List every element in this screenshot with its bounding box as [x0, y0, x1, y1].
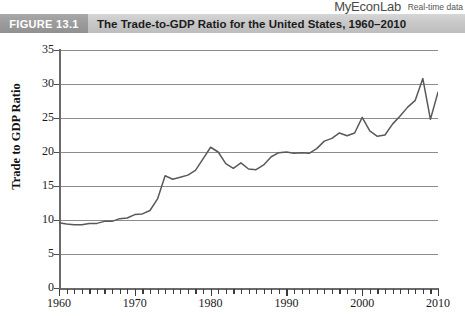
x-axis-minor-tick: [415, 289, 416, 294]
y-axis-tick-mark: [54, 50, 59, 51]
x-axis-minor-tick: [67, 289, 68, 294]
x-axis-minor-tick: [332, 289, 333, 294]
x-axis-minor-tick: [120, 289, 121, 294]
y-axis-tick-label: 35: [20, 42, 54, 57]
x-axis-minor-tick: [165, 289, 166, 294]
x-axis-minor-tick: [423, 289, 424, 294]
y-axis-tick-label: 25: [20, 110, 54, 125]
figure-caption-sliver: [0, 308, 465, 316]
x-axis-minor-tick: [104, 289, 105, 294]
x-axis-minor-tick: [89, 289, 90, 294]
y-axis-tick-label: 30: [20, 76, 54, 91]
y-axis-tick-mark: [54, 186, 59, 187]
x-axis-major-tick: [438, 289, 439, 296]
y-axis-tick-mark: [54, 118, 59, 119]
x-axis-minor-tick: [241, 289, 242, 294]
x-axis-minor-tick: [112, 289, 113, 294]
x-axis-minor-tick: [294, 289, 295, 294]
x-axis-minor-tick: [142, 289, 143, 294]
figure-number-badge: FIGURE 13.1: [0, 14, 88, 33]
x-axis-minor-tick: [173, 289, 174, 294]
x-axis-minor-tick: [279, 289, 280, 294]
x-axis-minor-tick: [158, 289, 159, 294]
x-axis-minor-tick: [430, 289, 431, 294]
x-axis-minor-tick: [370, 289, 371, 294]
x-axis-minor-tick: [302, 289, 303, 294]
x-axis-minor-tick: [226, 289, 227, 294]
x-axis-minor-tick: [317, 289, 318, 294]
y-axis-tick-labels: 05101520253035: [14, 33, 54, 316]
x-axis-minor-tick: [97, 289, 98, 294]
x-axis-minor-tick: [218, 289, 219, 294]
x-axis-minor-tick: [355, 289, 356, 294]
x-axis-minor-tick: [385, 289, 386, 294]
x-axis-major-tick: [362, 289, 363, 296]
x-axis-minor-tick: [195, 289, 196, 294]
y-axis-tick-mark: [54, 152, 59, 153]
figure-header-bar: FIGURE 13.1 The Trade-to-GDP Ratio for t…: [0, 14, 465, 33]
y-axis-tick-label: 20: [20, 144, 54, 159]
x-axis-minor-tick: [339, 289, 340, 294]
x-axis-minor-tick: [203, 289, 204, 294]
y-axis-tick-mark: [54, 220, 59, 221]
x-axis-minor-tick: [347, 289, 348, 294]
x-axis-minor-tick: [256, 289, 257, 294]
x-axis-minor-tick: [180, 289, 181, 294]
y-axis-tick-label: 5: [20, 246, 54, 261]
chart-container: Trade to GDP Ratio 05101520253035 196019…: [0, 33, 465, 316]
x-axis-major-tick: [59, 289, 60, 296]
x-axis-minor-tick: [393, 289, 394, 294]
x-axis-minor-tick: [377, 289, 378, 294]
myeconlab-logo-text: MyEconLab: [334, 0, 401, 14]
x-axis-minor-tick: [74, 289, 75, 294]
y-axis-tick-label: 0: [20, 280, 54, 295]
x-axis-minor-tick: [249, 289, 250, 294]
x-axis-minor-tick: [150, 289, 151, 294]
x-axis-major-tick: [211, 289, 212, 296]
x-axis-minor-tick: [271, 289, 272, 294]
x-axis-minor-tick: [309, 289, 310, 294]
x-axis-minor-tick: [127, 289, 128, 294]
figure-title: The Trade-to-GDP Ratio for the United St…: [97, 14, 406, 33]
x-axis-major-tick: [286, 289, 287, 296]
y-axis-tick-label: 15: [20, 178, 54, 193]
x-axis-minor-tick: [188, 289, 189, 294]
y-axis-tick-label: 10: [20, 212, 54, 227]
x-axis-minor-tick: [400, 289, 401, 294]
x-axis-minor-tick: [324, 289, 325, 294]
x-axis-minor-tick: [82, 289, 83, 294]
y-axis-tick-mark: [54, 84, 59, 85]
data-series-line: [59, 50, 438, 288]
x-axis-minor-tick: [408, 289, 409, 294]
x-axis-major-tick: [135, 289, 136, 296]
branding-strip: MyEconLab Real-time data: [0, 0, 465, 14]
x-axis-minor-tick: [233, 289, 234, 294]
y-axis-tick-mark: [54, 254, 59, 255]
x-axis-minor-tick: [264, 289, 265, 294]
figure-number-label: FIGURE 13.1: [9, 18, 78, 30]
realtime-data-label: Real-time data: [408, 2, 463, 12]
